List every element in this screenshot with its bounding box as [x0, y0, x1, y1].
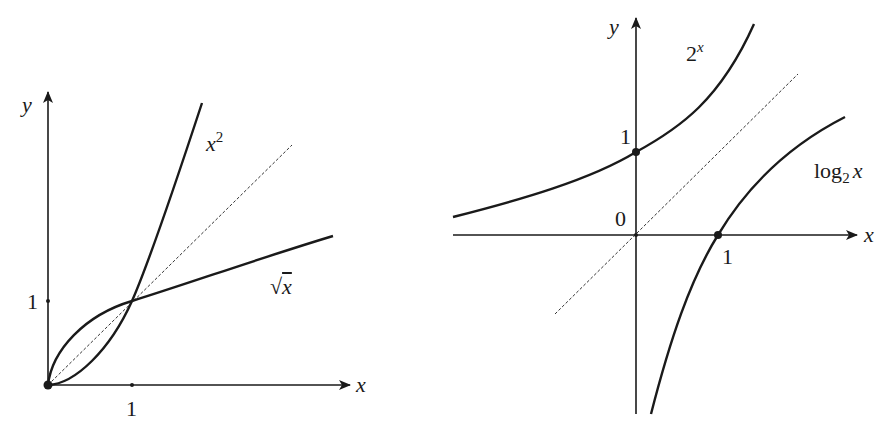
left-y-axis-label: y: [22, 94, 32, 116]
label-x-squared-exponent: 2: [216, 129, 224, 145]
right-y-axis-label: y: [609, 16, 619, 38]
left-origin-point: [44, 381, 53, 390]
right-origin-dot: [634, 233, 638, 237]
label-two-pow-x-base: 2: [686, 41, 697, 66]
left-graph: [44, 92, 351, 390]
label-sqrt-x: √x: [270, 276, 292, 298]
left-x-axis-label: x: [356, 374, 366, 396]
graphs-canvas: [0, 0, 896, 437]
label-log2-x: log2x: [814, 160, 862, 186]
left-x-tick-dot: [130, 383, 134, 387]
left-identity-dashed-line: [48, 145, 292, 385]
right-x-axis-label: x: [864, 224, 874, 246]
curve-two-pow-x: [453, 24, 754, 217]
right-identity-dashed-line: [555, 74, 798, 314]
label-log-base: 2: [842, 170, 850, 186]
label-log-fn: log: [814, 158, 842, 183]
right-y-tick-label: 1: [620, 126, 631, 148]
label-x-squared: x2: [206, 130, 223, 155]
curve-x-squared-smooth: [48, 103, 202, 385]
left-x-tick-label: 1: [126, 398, 137, 420]
right-x-tick-label: 1: [722, 246, 733, 268]
right-origin-label: 0: [615, 208, 626, 230]
right-graph: [453, 18, 857, 414]
label-two-pow-x: 2x: [686, 40, 704, 65]
left-y-tick-dot: [46, 299, 50, 303]
sqrt-radical-icon: √: [270, 274, 282, 299]
label-sqrt-arg: x: [282, 274, 292, 299]
label-two-pow-x-power: x: [697, 39, 704, 55]
right-y-intercept-point: [632, 148, 640, 156]
left-y-tick-label: 1: [27, 291, 38, 313]
label-x-squared-base: x: [206, 131, 216, 156]
right-x-intercept-point: [714, 231, 722, 239]
label-log-arg: x: [853, 158, 863, 183]
